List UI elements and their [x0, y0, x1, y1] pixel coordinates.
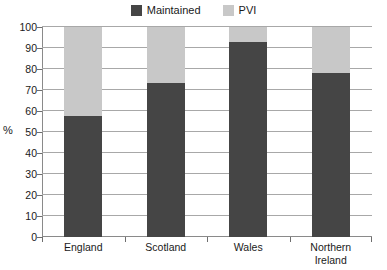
- bar-segment-maintained[interactable]: [64, 116, 102, 237]
- y-tick-label: 10: [5, 210, 37, 222]
- bar-segment-pvi[interactable]: [229, 27, 267, 42]
- bar-segment-pvi[interactable]: [64, 27, 102, 116]
- y-tick-label: 70: [5, 84, 37, 96]
- y-tick-label: 50: [5, 126, 37, 138]
- bar-group[interactable]: [147, 27, 185, 237]
- x-label-line: England: [40, 241, 126, 254]
- bar-segment-pvi[interactable]: [312, 27, 350, 73]
- x-axis-label: NorthernIreland: [288, 241, 374, 267]
- y-tick-label: 40: [5, 147, 37, 159]
- bar-segment-maintained[interactable]: [229, 42, 267, 237]
- x-label-line: Scotland: [123, 241, 209, 254]
- bar-segment-pvi[interactable]: [147, 27, 185, 83]
- x-axis-label: Scotland: [123, 241, 209, 254]
- x-axis-label: Wales: [205, 241, 291, 254]
- legend-label-pvi: PVI: [239, 5, 257, 16]
- x-label-line: Northern: [288, 241, 374, 254]
- bar-group[interactable]: [64, 27, 102, 237]
- x-axis-labels: EnglandScotlandWalesNorthernIreland: [42, 241, 372, 270]
- bar-series-container: [42, 27, 372, 237]
- plot-area: [42, 27, 372, 237]
- x-label-line: Ireland: [288, 254, 374, 267]
- bar-segment-maintained[interactable]: [312, 73, 350, 237]
- y-tick-label: 30: [5, 168, 37, 180]
- x-axis-label: England: [40, 241, 126, 254]
- legend-swatch-pvi: [223, 5, 234, 16]
- x-label-line: Wales: [205, 241, 291, 254]
- y-tick-label: 20: [5, 189, 37, 201]
- y-tick-label: 100: [5, 21, 37, 33]
- bar-group[interactable]: [312, 27, 350, 237]
- bar-group[interactable]: [229, 27, 267, 237]
- y-tick-label: 0: [5, 231, 37, 243]
- legend-label-maintained: Maintained: [147, 5, 201, 16]
- y-tick-label: 80: [5, 63, 37, 75]
- chart-legend: Maintained PVI: [0, 2, 387, 18]
- legend-item-maintained: Maintained: [131, 5, 201, 16]
- bar-segment-maintained[interactable]: [147, 83, 185, 237]
- y-tick-label: 60: [5, 105, 37, 117]
- legend-swatch-maintained: [131, 5, 142, 16]
- legend-item-pvi: PVI: [223, 5, 257, 16]
- y-tick-label: 90: [5, 42, 37, 54]
- stacked-bar-chart: Maintained PVI % 1009080706050403020100 …: [0, 0, 387, 270]
